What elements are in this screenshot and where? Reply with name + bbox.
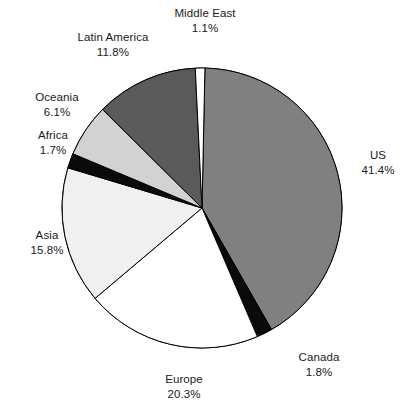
- pie-label-canada-value: 1.8%: [272, 365, 366, 380]
- pie-label-asia-value: 15.8%: [8, 243, 86, 258]
- pie-label-oceania-value: 6.1%: [12, 105, 102, 120]
- pie-label-asia-name: Asia: [8, 228, 86, 243]
- pie-label-oceania: Oceania 6.1%: [12, 90, 102, 119]
- pie-label-us: US 41.4%: [352, 148, 404, 177]
- pie-label-canada: Canada 1.8%: [272, 350, 366, 379]
- pie-slices-group: [62, 68, 342, 348]
- pie-label-oceania-name: Oceania: [12, 90, 102, 105]
- pie-label-africa: Africa 1.7%: [12, 128, 94, 157]
- pie-label-asia: Asia 15.8%: [8, 228, 86, 257]
- pie-label-latin-america-name: Latin America: [50, 30, 176, 45]
- pie-chart-page: Middle East 1.1% Latin America 11.8% Oce…: [0, 0, 405, 416]
- pie-label-canada-name: Canada: [272, 350, 366, 365]
- pie-label-latin-america-value: 11.8%: [50, 45, 176, 60]
- pie-label-us-value: 41.4%: [352, 163, 404, 178]
- pie-label-latin-america: Latin America 11.8%: [50, 30, 176, 59]
- pie-label-africa-value: 1.7%: [12, 143, 94, 158]
- pie-label-us-name: US: [352, 148, 404, 163]
- pie-label-europe-value: 20.3%: [136, 387, 232, 402]
- pie-label-africa-name: Africa: [12, 128, 94, 143]
- pie-label-europe-name: Europe: [136, 372, 232, 387]
- pie-label-europe: Europe 20.3%: [136, 372, 232, 401]
- pie-label-middle-east-name: Middle East: [146, 6, 264, 21]
